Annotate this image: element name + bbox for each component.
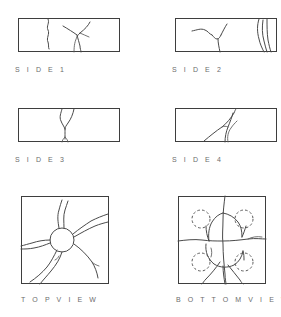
- side-2-drawing: [175, 18, 277, 52]
- side-2-crack-bundle-2: [262, 20, 267, 52]
- panel-top-view: [21, 196, 109, 284]
- side-2-crack-zigzag: [192, 29, 212, 35]
- top-crack-se: [74, 244, 98, 278]
- bottom-crack-splay-left: [202, 262, 220, 284]
- side-2-crack-bundle-3: [267, 19, 271, 52]
- panel-side-4: [175, 108, 277, 142]
- panel-side-3: [18, 108, 120, 142]
- side-4-drawing: [175, 108, 277, 142]
- side-3-crack-left-hook: [60, 109, 65, 129]
- top-crack-w-2: [21, 243, 50, 249]
- bottom-crack-arc-upper-right: [223, 213, 242, 237]
- side-2-crack-stem: [218, 39, 220, 52]
- side-1-crack-left: [47, 19, 49, 49]
- side-3-drawing: [18, 108, 120, 142]
- bottom-crack-spur-left: [211, 248, 212, 257]
- top-crack-n-1: [58, 200, 62, 228]
- bottom-crack-connector-lower-right: [243, 251, 244, 260]
- side-1-crack-tail: [80, 33, 89, 37]
- bottom-crack-arc-upper-left: [209, 213, 223, 241]
- side-2-crack-arm-up: [221, 24, 227, 35]
- panel-side-2: [175, 18, 277, 52]
- bottom-crack-horizontal-main: [178, 239, 266, 241]
- caption-side-3: S I D E 3: [15, 156, 66, 163]
- figure-sheet: S I D E 1 S I D E 2: [0, 0, 281, 317]
- side-1-crack-branch: [74, 37, 77, 52]
- caption-side-2: S I D E 2: [172, 66, 223, 73]
- side-1-crack-stem: [77, 35, 81, 52]
- top-crack-ne-1: [73, 214, 108, 234]
- side-4-frame: [176, 109, 277, 142]
- top-view-drawing: [21, 196, 109, 284]
- bottom-crack-splay-right: [228, 265, 243, 284]
- impact-circle: [50, 228, 74, 252]
- top-crack-sw-2: [30, 250, 57, 282]
- dashed-circle-top-right: [235, 210, 253, 228]
- side-3-frame: [19, 109, 120, 142]
- side-2-crack-vee: [212, 35, 221, 39]
- side-1-frame: [19, 19, 120, 52]
- panel-side-1: [18, 18, 120, 52]
- caption-bottom-view: B O T T O M V I E W: [176, 296, 281, 303]
- side-4-crack-main: [204, 109, 236, 141]
- side-4-crack-spur: [222, 126, 228, 127]
- panel-bottom-view: [178, 196, 266, 284]
- side-1-crack-fork-left: [63, 26, 77, 35]
- top-crack-n-2: [64, 201, 68, 228]
- caption-side-1: S I D E 1: [15, 66, 66, 73]
- caption-top-view: T O P V I E W: [21, 296, 99, 303]
- side-1-drawing: [18, 18, 120, 52]
- side-3-crack-right: [65, 109, 74, 129]
- caption-side-4: S I D E 4: [172, 156, 223, 163]
- bottom-view-drawing: [178, 196, 266, 284]
- dashed-circle-top-left: [192, 210, 210, 228]
